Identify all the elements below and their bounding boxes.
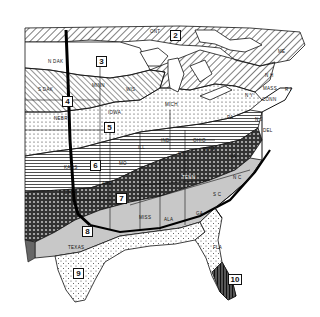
state-label: N H: [265, 74, 274, 79]
zone-7-marker: 7: [116, 193, 127, 204]
state-label: N C: [233, 176, 242, 181]
state-label: S C: [213, 193, 221, 198]
state-label: TENN: [182, 176, 195, 181]
state-label: R I: [285, 88, 292, 93]
state-label: N J: [255, 118, 263, 123]
zone-3-marker: 3: [96, 56, 107, 67]
zone-8-marker: 8: [82, 226, 93, 237]
state-label: MASS: [263, 87, 277, 92]
state-label: TEXAS: [68, 246, 84, 251]
state-label: CONN: [262, 98, 276, 103]
state-label: S DAK: [38, 88, 53, 93]
state-label: GA: [196, 212, 203, 217]
state-label: DEL: [263, 129, 273, 134]
state-label: ILL: [138, 146, 145, 151]
state-label: PA: [227, 116, 233, 121]
zone-10-marker: 10: [228, 274, 242, 285]
state-label: ONT: [150, 30, 160, 35]
state-label: IND: [161, 139, 170, 144]
zone-5-marker: 5: [104, 122, 115, 133]
state-label: KANS: [64, 166, 77, 171]
hardiness-zone-map: 2 3 4 5 6 7 8 9 10 N DAK S DAK MINN WIS …: [0, 0, 320, 317]
state-label: ME: [278, 50, 285, 55]
state-label: N DAK: [48, 60, 63, 65]
zone-4-marker: 4: [62, 96, 73, 107]
state-label: N Y: [245, 94, 253, 99]
state-label: KY: [178, 152, 185, 157]
state-label: MINN: [92, 84, 105, 89]
state-label: ALA: [164, 218, 173, 223]
state-label: NEBR: [54, 117, 68, 122]
state-label: MICH: [165, 103, 178, 108]
zone-2-marker: 2: [170, 30, 181, 41]
state-label: OKLA: [64, 191, 77, 196]
state-label: VA: [230, 155, 236, 160]
zone-6-marker: 6: [90, 160, 101, 171]
state-label: W VA: [203, 148, 215, 153]
state-label: ARK: [102, 182, 112, 187]
zone-9-marker: 9: [73, 268, 84, 279]
state-label: MISS: [139, 216, 151, 221]
state-label: MO: [119, 162, 127, 167]
state-label: FLA: [213, 246, 222, 251]
state-label: IOWA: [108, 111, 121, 116]
map-graphic: [0, 0, 320, 317]
state-label: WIS: [126, 88, 135, 93]
state-label: OHIO: [193, 139, 206, 144]
